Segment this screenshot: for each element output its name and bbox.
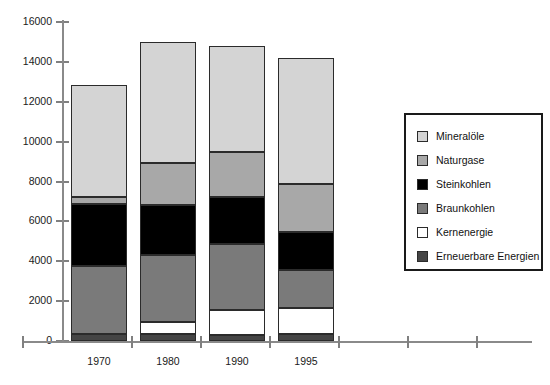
legend-label: Mineralöle [436, 131, 484, 142]
x-tick-mark [269, 336, 271, 348]
y-tick-label: 14000 [0, 55, 52, 67]
bar-segment[interactable] [140, 255, 196, 322]
bar-segment[interactable] [278, 308, 334, 334]
legend-item[interactable]: Mineralöle [417, 124, 541, 148]
bar-segment[interactable] [278, 334, 334, 341]
legend-item[interactable]: Braunkohlen [417, 196, 541, 220]
bar-segment[interactable] [140, 322, 196, 334]
bar-segment[interactable] [278, 232, 334, 270]
y-tick-label: 2000 [0, 294, 52, 306]
y-tick-label: 6000 [0, 214, 52, 226]
bar-1970[interactable] [71, 83, 127, 341]
bar-segment[interactable] [71, 334, 127, 341]
y-tick-label: 16000 [0, 15, 52, 27]
y-tick-label: 12000 [0, 95, 52, 107]
legend-swatch-icon [417, 227, 428, 238]
legend-label: Kernenergie [436, 227, 493, 238]
legend-swatch-icon [417, 155, 428, 166]
x-tick-mark [22, 336, 24, 348]
bar-1980[interactable] [140, 42, 196, 341]
x-tick-mark [200, 336, 202, 348]
legend-swatch-icon [417, 251, 428, 262]
bar-segment[interactable] [209, 310, 265, 335]
legend: MineralöleNaturgaseSteinkohlenBraunkohle… [404, 113, 543, 271]
legend-item[interactable]: Erneuerbare Energien [417, 244, 541, 268]
legend-label: Braunkohlen [436, 203, 495, 214]
bar-segment[interactable] [71, 85, 127, 198]
legend-swatch-icon [417, 131, 428, 142]
legend-label: Steinkohlen [436, 179, 491, 190]
bar-1990[interactable] [209, 46, 265, 341]
legend-label: Naturgase [436, 155, 484, 166]
x-tick-label-1970: 1970 [71, 355, 127, 367]
y-tick-label: 0 [0, 334, 52, 346]
legend-label: Erneuerbare Energien [436, 251, 539, 262]
legend-item[interactable]: Naturgase [417, 148, 541, 172]
bar-segment[interactable] [140, 334, 196, 341]
bar-segment[interactable] [140, 205, 196, 255]
bar-segment[interactable] [71, 266, 127, 334]
y-tick-label: 4000 [0, 254, 52, 266]
x-tick-label-1995: 1995 [278, 355, 334, 367]
y-axis-line [62, 20, 64, 343]
x-tick-mark [338, 336, 340, 348]
x-axis-line [22, 341, 532, 343]
bar-1995[interactable] [278, 58, 334, 341]
bar-segment[interactable] [140, 163, 196, 206]
bar-segment[interactable] [209, 197, 265, 244]
bar-segment[interactable] [71, 204, 127, 266]
x-tick-mark [476, 336, 478, 348]
stacked-bar-chart: 0200040006000800010000120001400016000 19… [0, 0, 550, 385]
y-tick-label: 10000 [0, 135, 52, 147]
x-tick-mark [407, 336, 409, 348]
bar-segment[interactable] [209, 335, 265, 341]
bar-segment[interactable] [209, 244, 265, 310]
bar-segment[interactable] [278, 184, 334, 232]
bar-segment[interactable] [71, 197, 127, 204]
y-tick-label: 8000 [0, 175, 52, 187]
x-tick-label-1990: 1990 [209, 355, 265, 367]
bar-segment[interactable] [209, 46, 265, 152]
bar-segment[interactable] [278, 270, 334, 308]
x-tick-mark [131, 336, 133, 348]
bar-segment[interactable] [140, 42, 196, 163]
x-tick-label-1980: 1980 [140, 355, 196, 367]
bar-segment[interactable] [209, 152, 265, 198]
legend-swatch-icon [417, 179, 428, 190]
legend-item[interactable]: Steinkohlen [417, 172, 541, 196]
legend-item[interactable]: Kernenergie [417, 220, 541, 244]
legend-swatch-icon [417, 203, 428, 214]
bar-segment[interactable] [278, 58, 334, 185]
